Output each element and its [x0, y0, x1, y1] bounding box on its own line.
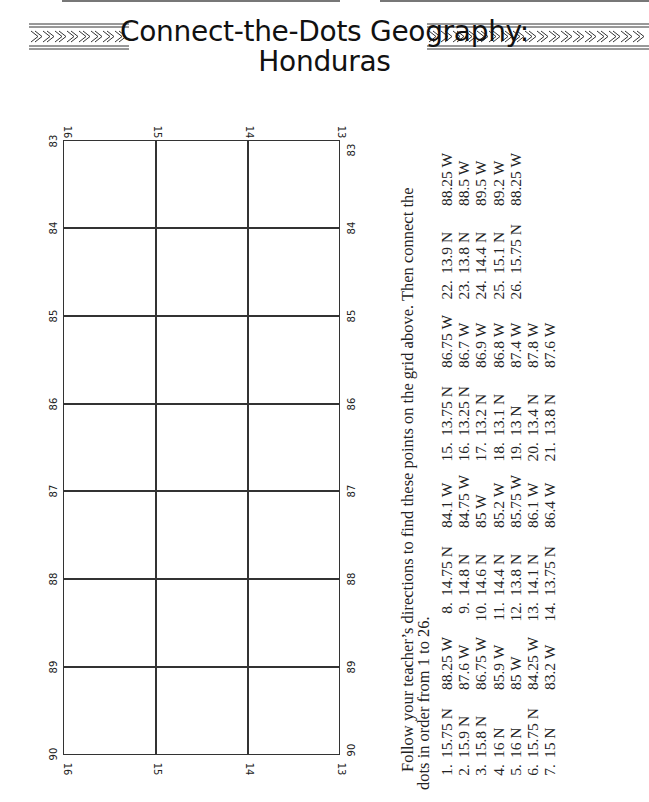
- title-line-2: Honduras: [0, 47, 649, 77]
- point-row-21: 21.13.8 N87.6 W: [541, 298, 558, 468]
- grid-line-lon-87: [64, 490, 339, 492]
- point-row-22: 22.13.9 N88.25 W: [438, 136, 455, 306]
- point-row-2: 2.15.9 N87.6 W: [455, 620, 472, 790]
- lon-label-right-85: 85: [347, 306, 357, 326]
- lon-label-left-84: 84: [49, 218, 59, 238]
- lat-label-top-15: 15: [152, 122, 162, 142]
- grid-line-lon-84: [64, 227, 339, 229]
- point-row-13: 13.14.1 N86.1 W: [524, 458, 541, 628]
- lon-label-right-84: 84: [347, 218, 357, 238]
- point-row-12: 12.13.8 N85.75 W: [507, 458, 524, 628]
- point-row-25: 25.15.1 N89.2 W: [490, 136, 507, 306]
- instructions-line-2: dots in order from 1 to 26.: [416, 140, 432, 790]
- lon-label-right-89: 89: [347, 657, 357, 677]
- point-row-18: 18.13.1 N86.8 W: [490, 298, 507, 468]
- grid-line-lon-89: [64, 666, 339, 668]
- top-rule-left: [62, 0, 340, 2]
- lat-label-bottom-16: 16: [62, 759, 72, 779]
- point-row-4: 4.16 N85.9 W: [490, 620, 507, 790]
- point-row-7: 7.15 N83.2 W: [541, 620, 558, 790]
- point-row-1: 1.15.75 N88.25 W: [438, 620, 455, 790]
- lat-label-bottom-13: 13: [336, 759, 346, 779]
- lon-label-left-89: 89: [49, 657, 59, 677]
- grid-line-lat-15: [155, 141, 157, 754]
- lat-label-top-14: 14: [244, 122, 254, 142]
- grid-line-lat-14: [247, 141, 249, 754]
- coordinate-list: 1.15.75 N88.25 W 2.15.9 N87.6 W 3.15.8 N…: [438, 140, 568, 790]
- point-row-17: 17.13.2 N86.9 W: [472, 298, 489, 468]
- point-row-16: 16.13.25 N86.7 W: [455, 298, 472, 468]
- lon-label-left-90: 90: [49, 744, 59, 764]
- lon-label-left-85: 85: [49, 306, 59, 326]
- lon-label-right-86: 86: [347, 394, 357, 414]
- lat-label-bottom-15: 15: [152, 759, 162, 779]
- title-line-1: Connect-the-Dots Geography:: [0, 17, 649, 47]
- lon-label-right-87: 87: [347, 481, 357, 501]
- lon-label-left-83: 83: [49, 131, 59, 151]
- point-row-24: 24.14.4 N89.5 W: [472, 136, 489, 306]
- instructions: Follow your teacher’s directions to find…: [400, 140, 432, 790]
- lat-label-top-13: 13: [336, 122, 346, 142]
- grid-line-lon-88: [64, 578, 339, 580]
- lon-label-left-88: 88: [49, 569, 59, 589]
- coordinate-column-3: 15.13.75 N86.75 W 16.13.25 N86.7 W 17.13…: [438, 298, 558, 468]
- lon-label-left-87: 87: [49, 481, 59, 501]
- grid-line-lon-85: [64, 315, 339, 317]
- point-row-19: 19.13 N87.4 W: [507, 298, 524, 468]
- point-row-26: 26.15.75 N88.25 W: [507, 136, 524, 306]
- lon-label-right-88: 88: [347, 569, 357, 589]
- page-title: Connect-the-Dots Geography: Honduras: [0, 17, 649, 77]
- point-row-5: 5.16 N85 W: [507, 620, 524, 790]
- point-row-8: 8.14.75 N84.1 W: [438, 458, 455, 628]
- coordinate-column-2: 8.14.75 N84.1 W 9.14.8 N84.75 W 10.14.6 …: [438, 458, 558, 628]
- coordinate-grid[interactable]: [63, 140, 340, 755]
- coordinate-column-1: 1.15.75 N88.25 W 2.15.9 N87.6 W 3.15.8 N…: [438, 620, 558, 790]
- point-row-14: 14.13.75 N86.4 W: [541, 458, 558, 628]
- point-row-20: 20.13.4 N87.8 W: [524, 298, 541, 468]
- point-row-3: 3.15.8 N86.75 W: [472, 620, 489, 790]
- lon-label-right-83: 83: [347, 140, 357, 160]
- point-row-15: 15.13.75 N86.75 W: [438, 298, 455, 468]
- lon-label-right-90: 90: [347, 740, 357, 760]
- grid-line-lon-86: [64, 403, 339, 405]
- point-row-11: 11.14.4 N85.2 W: [490, 458, 507, 628]
- point-row-10: 10.14.6 N85 W: [472, 458, 489, 628]
- point-row-9: 9.14.8 N84.75 W: [455, 458, 472, 628]
- instructions-panel: Follow your teacher’s directions to find…: [400, 140, 568, 790]
- lon-label-left-86: 86: [49, 394, 59, 414]
- lat-label-bottom-14: 14: [244, 759, 254, 779]
- coordinate-column-4: 22.13.9 N88.25 W 23.13.8 N88.5 W 24.14.4…: [438, 136, 524, 306]
- point-row-23: 23.13.8 N88.5 W: [455, 136, 472, 306]
- top-rule-right: [380, 0, 649, 2]
- lat-label-top-16: 16: [62, 122, 72, 142]
- point-row-6: 6.15.75 N84.25 W: [524, 620, 541, 790]
